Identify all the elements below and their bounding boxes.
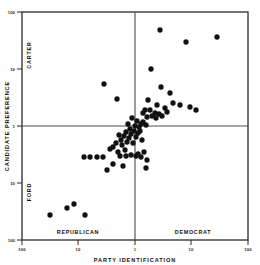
data-point (193, 107, 198, 112)
democrat-label: DEMOCRAT (175, 229, 211, 235)
data-point (148, 66, 153, 71)
data-point (183, 39, 188, 44)
data-point (107, 146, 112, 151)
data-point (100, 154, 105, 159)
data-point (137, 128, 142, 133)
data-point (139, 137, 144, 142)
data-point (141, 149, 146, 154)
data-point (144, 157, 149, 162)
data-point (122, 147, 127, 152)
carter-label: CARTER (26, 41, 32, 68)
data-point (128, 152, 133, 157)
y-tick-label-0: 100 (8, 10, 16, 15)
x-tick-label-0: 100 (18, 247, 26, 252)
x-tick-label-1: 10 (76, 247, 81, 252)
data-point (47, 212, 52, 217)
republican-label: REPUBLICAN (57, 229, 99, 235)
data-point (119, 142, 124, 147)
data-point (214, 34, 219, 39)
data-point (142, 107, 147, 112)
y-axis-title: CANDIDATE PREFERENCE (4, 81, 10, 171)
x-tick-label-4: 100 (244, 247, 252, 252)
y-tick-label-4: 100 (8, 238, 16, 243)
data-point (153, 115, 158, 120)
data-point (133, 134, 138, 139)
data-points-group (47, 27, 219, 217)
data-point (116, 132, 121, 137)
data-point (170, 100, 175, 105)
data-point (114, 96, 119, 101)
y-tick-label-2: 1 (13, 124, 16, 129)
data-point (167, 90, 172, 95)
data-point (110, 161, 115, 166)
y-tick-label-1: 10 (10, 67, 15, 72)
data-point (138, 154, 143, 159)
data-point (147, 107, 152, 112)
data-point (94, 154, 99, 159)
x-tick-label-2: 1 (134, 247, 137, 252)
data-point (71, 201, 76, 206)
data-point (87, 154, 92, 159)
data-point (164, 109, 169, 114)
data-point (133, 153, 138, 158)
data-point (157, 27, 162, 32)
data-point (124, 139, 129, 144)
plot-area: 100 10 1 10 100 100 10 1 10 100 CANDIDAT… (0, 0, 260, 265)
scatter-chart: 100 10 1 10 100 100 10 1 10 100 CANDIDAT… (0, 0, 260, 265)
data-point (125, 121, 130, 126)
data-point (120, 163, 125, 168)
data-point (177, 102, 182, 107)
data-point (123, 153, 128, 158)
data-point (144, 114, 149, 119)
data-point (143, 122, 148, 127)
data-point (82, 212, 87, 217)
ford-label: FORD (26, 183, 32, 201)
data-point (129, 115, 134, 120)
data-point (159, 113, 164, 118)
data-point (117, 153, 122, 158)
data-point (158, 84, 163, 89)
data-point (104, 167, 109, 172)
data-point (130, 140, 135, 145)
x-axis-title: PARTY IDENTIFICATION (94, 257, 176, 263)
x-tick-label-3: 10 (189, 247, 194, 252)
data-point (145, 97, 150, 102)
data-point (118, 137, 123, 142)
data-point (64, 205, 69, 210)
data-point (187, 104, 192, 109)
data-point (154, 102, 159, 107)
data-point (101, 81, 106, 86)
data-point (81, 154, 86, 159)
y-tick-label-3: 10 (10, 181, 15, 186)
data-point (143, 165, 148, 170)
